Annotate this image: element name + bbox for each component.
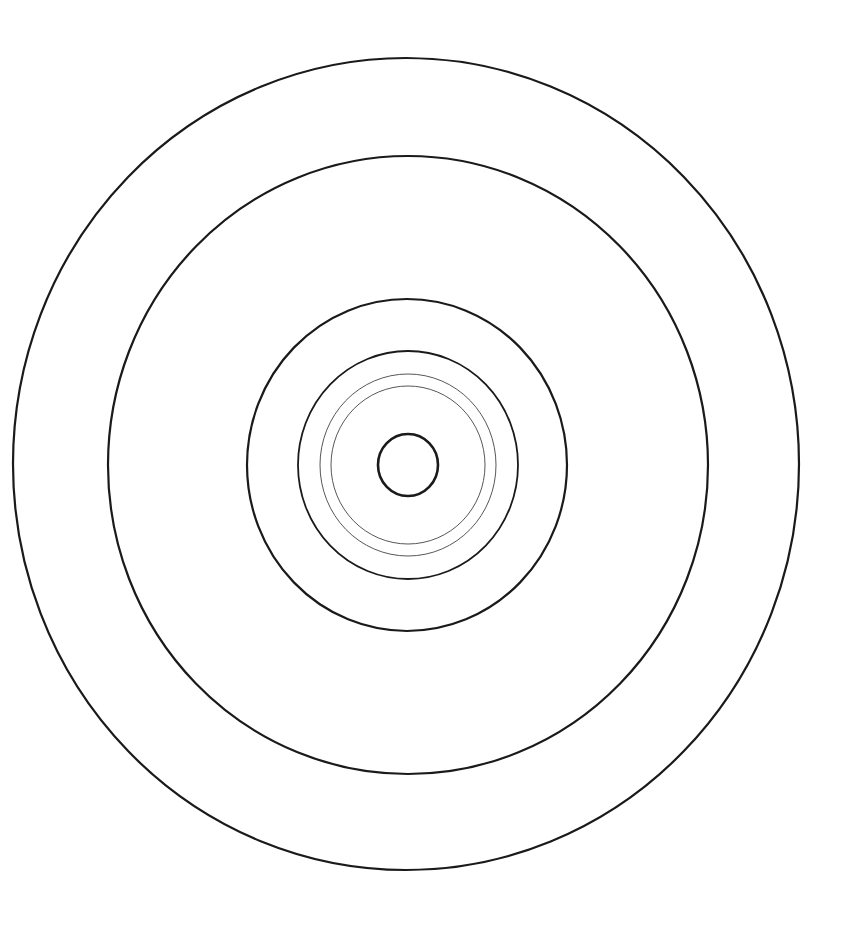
ring-outer: [13, 58, 799, 870]
ring-2: [108, 156, 708, 774]
ring-3: [247, 299, 567, 631]
ring-6-thin: [331, 386, 485, 544]
ring-inner: [378, 434, 438, 496]
concentric-circles-diagram: [0, 0, 847, 925]
ring-5-thin: [320, 374, 496, 556]
